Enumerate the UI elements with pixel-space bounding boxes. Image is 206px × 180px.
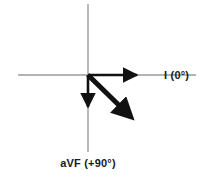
mean-axis-vector	[88, 75, 130, 116]
ecg-axis-diagram: I (0°) aVF (+90°)	[0, 0, 206, 180]
label-lead-i: I (0°)	[164, 69, 189, 81]
vector-diagram-svg: I (0°) aVF (+90°)	[0, 0, 206, 180]
label-lead-avf: aVF (+90°)	[60, 157, 116, 169]
